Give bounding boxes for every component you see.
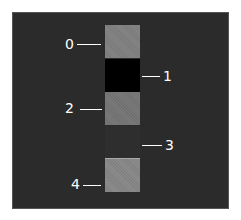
block-4 [105,158,140,192]
block-3 [105,126,140,158]
leader-line-2 [80,109,102,110]
leader-line-1 [142,76,160,77]
block-1 [105,59,140,92]
label-3: 3 [165,138,174,152]
leader-line-3 [142,145,162,146]
label-1: 1 [163,69,172,83]
block-2 [105,92,140,125]
label-0: 0 [65,37,74,51]
label-2: 2 [65,101,74,115]
leader-line-4 [83,185,101,186]
diagram-panel: 0 1 2 3 4 [12,12,229,209]
block-0 [105,25,140,58]
label-4: 4 [71,177,80,191]
leader-line-0 [77,44,101,45]
